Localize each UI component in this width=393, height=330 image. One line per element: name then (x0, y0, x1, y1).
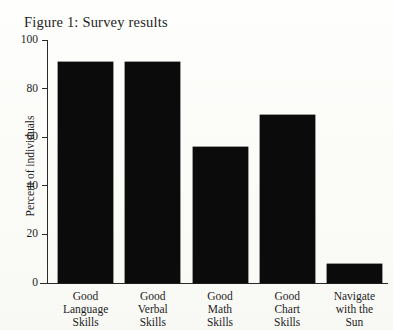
x-axis-line (40, 283, 388, 284)
x-axis-label-line: Skills (119, 316, 186, 329)
x-axis-label-line: Skills (186, 316, 253, 329)
y-axis-tick (42, 40, 47, 41)
y-axis-tick (42, 283, 47, 284)
x-axis-label: Navigatewith theSun (321, 290, 388, 330)
x-axis-label-line: Math (186, 303, 253, 316)
y-axis-line (47, 40, 48, 284)
y-axis-tick-label: 100 (0, 34, 38, 46)
y-axis-tick (42, 137, 47, 138)
x-axis-label-line: Skills (254, 316, 321, 329)
x-axis-label-line: Verbal (119, 303, 186, 316)
x-axis-label-line: Good (254, 290, 321, 303)
y-axis-tick (42, 185, 47, 186)
y-axis-tick-label: 80 (0, 83, 38, 95)
bar (260, 115, 315, 283)
bar (125, 62, 180, 283)
y-axis-tick (42, 88, 47, 89)
x-axis-label-line: Skills (52, 316, 119, 329)
x-axis-label-line: Sun (321, 316, 388, 329)
x-axis-label-line: Navigate (321, 290, 388, 303)
x-axis-label: GoodMathSkills (186, 290, 253, 330)
y-axis-tick (42, 234, 47, 235)
y-axis-tick-label: 40 (0, 180, 38, 192)
x-axis-label-line: Good (119, 290, 186, 303)
bar (58, 62, 113, 283)
x-axis-label: GoodLanguageSkills (52, 290, 119, 330)
x-axis-label-line: Good (186, 290, 253, 303)
bar (193, 147, 248, 283)
y-axis-tick-label: 60 (0, 131, 38, 143)
x-axis-label-line: Good (52, 290, 119, 303)
x-axis-label: GoodChartSkills (254, 290, 321, 330)
x-axis-label-line: Chart (254, 303, 321, 316)
x-axis-label-line: Language (52, 303, 119, 316)
bar (327, 264, 382, 283)
x-axis-label: GoodVerbalSkills (119, 290, 186, 330)
x-axis-label-line: with the (321, 303, 388, 316)
figure-page: Figure 1: Survey results Percent of indi… (0, 0, 393, 330)
y-axis-tick-label: 0 (0, 277, 38, 289)
bar-chart: Percent of individuals 020406080100 Good… (0, 0, 393, 330)
y-axis-tick-label: 20 (0, 228, 38, 240)
